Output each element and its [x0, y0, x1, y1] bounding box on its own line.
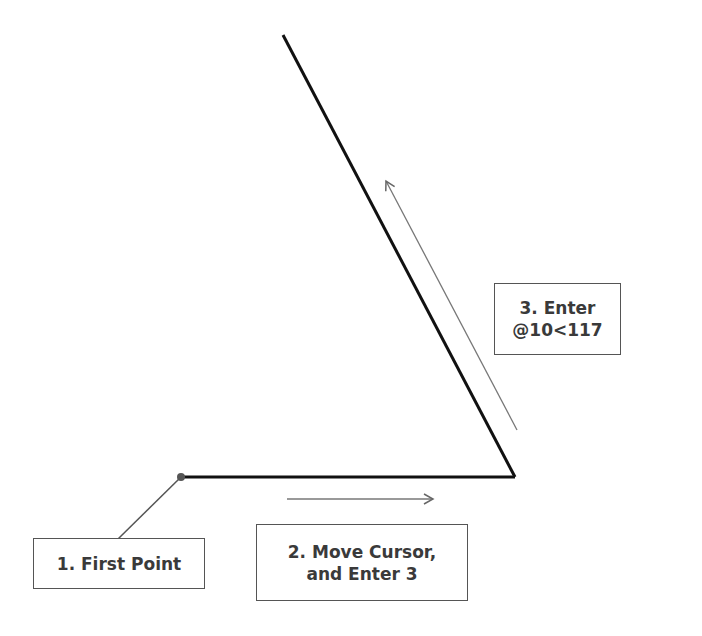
angled-segment [283, 35, 515, 477]
step3-label-box: 3. Enter @10<117 [494, 283, 621, 355]
step2-label-line1: 2. Move Cursor, [288, 541, 436, 563]
step1-label-box: 1. First Point [33, 538, 205, 589]
step2-label-line2: and Enter 3 [306, 563, 417, 585]
step3-label-line1: 3. Enter [520, 297, 596, 319]
step3-label-line2: @10<117 [512, 319, 602, 341]
leader-line [118, 477, 181, 539]
step2-label-box: 2. Move Cursor, and Enter 3 [256, 524, 468, 601]
step1-label: 1. First Point [57, 553, 181, 575]
